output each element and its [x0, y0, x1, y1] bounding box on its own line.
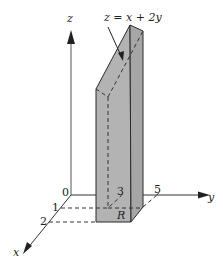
region-label: R	[116, 209, 125, 222]
z-axis	[67, 30, 75, 195]
x-axis-label: x	[13, 246, 20, 259]
origin-label: 0	[62, 186, 69, 199]
solid-side-face	[130, 25, 143, 222]
x-tick-2: 2	[40, 215, 47, 228]
z-axis-arrow-icon	[67, 30, 75, 44]
y-axis-label: y	[207, 191, 215, 204]
surface-label: z = x + 2y	[103, 11, 162, 24]
y-tick-3: 3	[117, 185, 124, 198]
x-tick-1: 1	[52, 201, 59, 214]
diagram-canvas: z = x + 2y z y x 0 1 2 3 5 R	[0, 0, 223, 270]
z-axis-label: z	[66, 12, 73, 25]
y-tick-5: 5	[154, 183, 161, 196]
x-axis	[23, 195, 71, 254]
solid-front-face	[96, 25, 131, 222]
